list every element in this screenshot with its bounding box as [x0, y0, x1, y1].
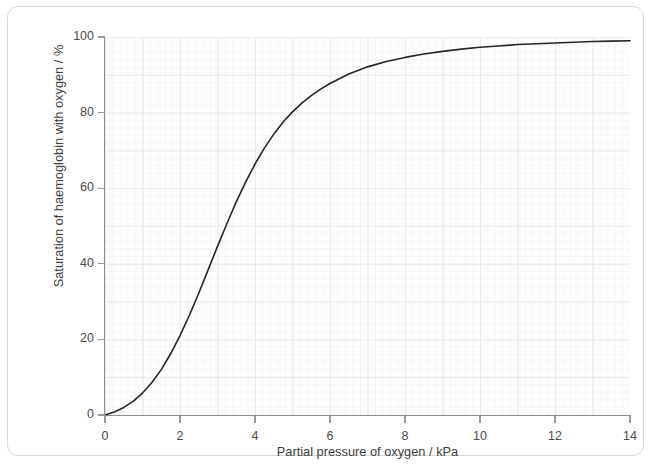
y-axis-tick — [98, 263, 105, 264]
curve-path — [105, 41, 630, 415]
y-axis-title: Saturation of haemoglobin with oxygen / … — [51, 6, 66, 326]
y-axis-tick — [98, 36, 105, 37]
y-axis-tick — [98, 188, 105, 189]
plot-area — [105, 37, 630, 415]
x-axis-tick — [404, 416, 405, 423]
oxygen-dissociation-curve — [105, 37, 630, 415]
x-axis-tick-label: 14 — [623, 429, 637, 443]
x-axis-tick — [254, 416, 255, 423]
x-axis-tick-label: 12 — [548, 429, 562, 443]
y-axis-line — [104, 37, 105, 416]
x-axis-tick-label-box: 12 — [535, 426, 575, 442]
x-axis-tick-label-box: 2 — [160, 426, 200, 442]
y-axis-tick-label: 20 — [60, 332, 94, 345]
x-axis-tick-label-box: 0 — [85, 426, 125, 442]
x-axis-tick — [104, 416, 105, 423]
y-axis-tick — [98, 339, 105, 340]
y-axis-tick-label: 0 — [60, 408, 94, 421]
x-axis-title: Partial pressure of oxygen / kPa — [105, 444, 630, 459]
x-axis-tick-label: 4 — [252, 429, 259, 443]
x-axis-tick-label: 0 — [102, 429, 109, 443]
x-axis-tick — [179, 416, 180, 423]
y-axis-tick-label-box: 20 — [60, 332, 94, 346]
x-axis-tick-label: 6 — [327, 429, 334, 443]
x-axis-tick-label: 2 — [177, 429, 184, 443]
y-axis-tick — [98, 112, 105, 113]
x-axis-tick — [629, 416, 630, 423]
x-axis-tick-label-box: 14 — [610, 426, 650, 442]
x-axis-tick-label-box: 10 — [460, 426, 500, 442]
x-axis-tick-label-box: 4 — [235, 426, 275, 442]
x-axis-tick-label: 10 — [473, 429, 487, 443]
x-axis-tick — [329, 416, 330, 423]
x-axis-line — [104, 415, 631, 416]
x-axis-tick-label-box: 6 — [310, 426, 350, 442]
y-axis-tick-label-box: 0 — [60, 408, 94, 422]
figure-card: 020406080100 02468101214 Partial pressur… — [7, 6, 644, 456]
x-axis-tick — [479, 416, 480, 423]
x-axis-tick-label: 8 — [402, 429, 409, 443]
x-axis-tick-label-box: 8 — [385, 426, 425, 442]
x-axis-tick — [554, 416, 555, 423]
y-axis-title-wrapper: Saturation of haemoglobin with oxygen / … — [51, 6, 71, 326]
